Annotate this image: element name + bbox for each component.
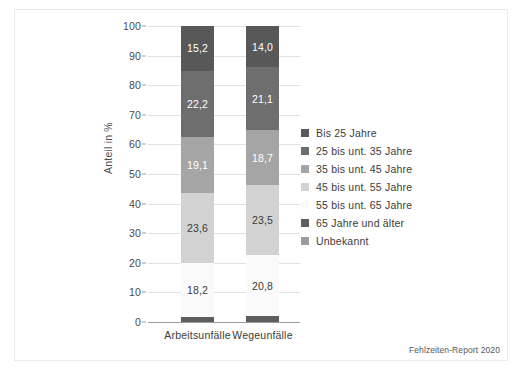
- legend-swatch-icon: [301, 237, 309, 245]
- y-axis-tick-label: 10: [129, 286, 141, 298]
- y-axis-tick-label: 90: [129, 50, 141, 62]
- y-axis-tick-mark: [142, 292, 146, 293]
- legend-item[interactable]: Bis 25 Jahre: [301, 124, 481, 142]
- legend-item[interactable]: 35 bis unt. 45 Jahre: [301, 160, 481, 178]
- bar-arbeitsunfälle[interactable]: 15,222,219,123,618,2: [181, 26, 214, 322]
- y-axis-tick-mark: [142, 85, 146, 86]
- plot-area: 0102030405060708090100 15,222,219,123,61…: [148, 26, 300, 322]
- legend-swatch-icon: [301, 183, 309, 191]
- y-axis-tick-mark: [142, 144, 146, 145]
- legend-label: Unbekannt: [316, 235, 369, 247]
- legend-label: 35 bis unt. 45 Jahre: [316, 163, 412, 175]
- legend-swatch-icon: [301, 165, 309, 173]
- legend-label: 55 bis unt. 65 Jahre: [316, 199, 412, 211]
- bar-segment[interactable]: 19,1: [181, 137, 214, 194]
- bar-segment[interactable]: 18,7: [246, 130, 279, 185]
- legend-label: 45 bis unt. 55 Jahre: [316, 181, 412, 193]
- bar-segment[interactable]: 23,6: [181, 193, 214, 263]
- x-axis-tick-label: Arbeitsunfälle: [164, 329, 230, 341]
- bar-wegeunfälle[interactable]: 14,021,118,723,520,8: [246, 26, 279, 322]
- y-axis-tick-label: 50: [129, 168, 141, 180]
- bar-segment[interactable]: 22,2: [181, 71, 214, 137]
- legend-label: 25 bis unt. 35 Jahre: [316, 145, 412, 157]
- y-axis-tick-label: 100: [123, 20, 141, 32]
- figure-container: Anteil in % 0102030405060708090100 15,22…: [0, 0, 522, 376]
- y-axis-tick-label: 40: [129, 198, 141, 210]
- y-axis-tick-label: 30: [129, 227, 141, 239]
- y-axis-tick-mark: [142, 233, 146, 234]
- bar-segment[interactable]: 21,1: [246, 67, 279, 129]
- bar-segment[interactable]: 18,2: [181, 263, 214, 317]
- chart-legend: Bis 25 Jahre25 bis unt. 35 Jahre35 bis u…: [301, 124, 481, 250]
- y-axis-tick-label: 0: [135, 316, 141, 328]
- bar-segment[interactable]: 23,5: [246, 185, 279, 255]
- y-axis-title: Anteil in %: [102, 122, 114, 174]
- bar-segment[interactable]: [246, 316, 279, 322]
- y-axis-tick-mark: [142, 55, 146, 56]
- source-note: Fehlzeiten-Report 2020: [409, 345, 500, 355]
- legend-item[interactable]: 65 Jahre und älter: [301, 214, 481, 232]
- y-axis-tick-label: 70: [129, 109, 141, 121]
- bar-segment[interactable]: 15,2: [181, 26, 214, 71]
- legend-swatch-icon: [301, 201, 309, 209]
- legend-item[interactable]: 55 bis unt. 65 Jahre: [301, 196, 481, 214]
- legend-swatch-icon: [301, 129, 309, 137]
- legend-swatch-icon: [301, 147, 309, 155]
- bar-segment[interactable]: 20,8: [246, 255, 279, 317]
- gridline: [148, 322, 300, 323]
- y-axis-tick-label: 80: [129, 79, 141, 91]
- legend-label: Bis 25 Jahre: [316, 127, 377, 139]
- y-axis-tick-label: 60: [129, 138, 141, 150]
- y-axis-tick-mark: [142, 114, 146, 115]
- legend-label: 65 Jahre und älter: [316, 217, 404, 229]
- bar-segment[interactable]: 14,0: [246, 26, 279, 67]
- legend-item[interactable]: 25 bis unt. 35 Jahre: [301, 142, 481, 160]
- y-axis-tick-mark: [142, 26, 146, 27]
- y-axis-tick-mark: [142, 322, 146, 323]
- legend-swatch-icon: [301, 219, 309, 227]
- legend-item[interactable]: 45 bis unt. 55 Jahre: [301, 178, 481, 196]
- x-axis-tick-label: Wegeunfälle: [232, 329, 292, 341]
- bar-segment[interactable]: [181, 317, 214, 322]
- y-axis-tick-label: 20: [129, 257, 141, 269]
- legend-item[interactable]: Unbekannt: [301, 232, 481, 250]
- y-axis-tick-mark: [142, 262, 146, 263]
- y-axis-tick-mark: [142, 203, 146, 204]
- y-axis-tick-mark: [142, 174, 146, 175]
